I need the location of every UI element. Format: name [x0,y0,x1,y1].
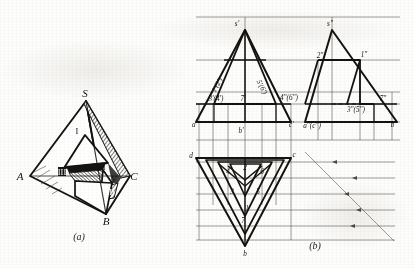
label-a: A [16,170,24,182]
label-7-prime: 7' [240,95,246,103]
label-35-dprime: 3"(5") [346,106,366,114]
label-a-prime: a' [192,121,198,129]
drawing-canvas: S A B C I III VI V VII (a) [0,0,414,268]
label-s-dprime: s" [327,20,334,28]
label-2-dprime: 2" [317,52,325,60]
label-46-dprime: 4"(6") [280,94,299,102]
label-1-dprime: 1" [361,51,369,59]
label-1-top: 1 [245,205,249,213]
label-4-top: 4 [226,168,230,176]
label-b-dprime: b" [391,121,399,129]
caption-b: (b) [309,240,321,252]
label-face-v: V [111,174,118,184]
label-b-prime: b' [238,127,244,135]
label-7-dprime: 7" [380,95,388,103]
label-34-prime: 3'(4') [207,95,224,103]
label-s-prime: s' [235,20,240,28]
label-face-i: I [76,126,79,136]
label-b: B [103,215,110,227]
label-face-vii: VII [103,187,115,197]
label-3-top: 3 [229,188,234,196]
label-c-prime: c' [289,121,294,129]
label-6-top: 6 [260,168,264,176]
label-ac-dprime: a"(c") [303,122,321,130]
label-2-top: 2 [243,164,247,172]
label-d-top: d [189,152,193,160]
label-b-top: b [243,250,247,258]
label-5-top: 5 [256,188,260,196]
label-face-iii: III [58,167,67,177]
label-7-top: 7 [241,217,245,225]
caption-a: (a) [73,231,85,243]
label-s: S [82,87,88,99]
label-c: C [130,170,138,182]
engineering-drawing-figure: S A B C I III VI V VII (a) [0,0,414,268]
label-face-vi: VI [97,162,106,172]
